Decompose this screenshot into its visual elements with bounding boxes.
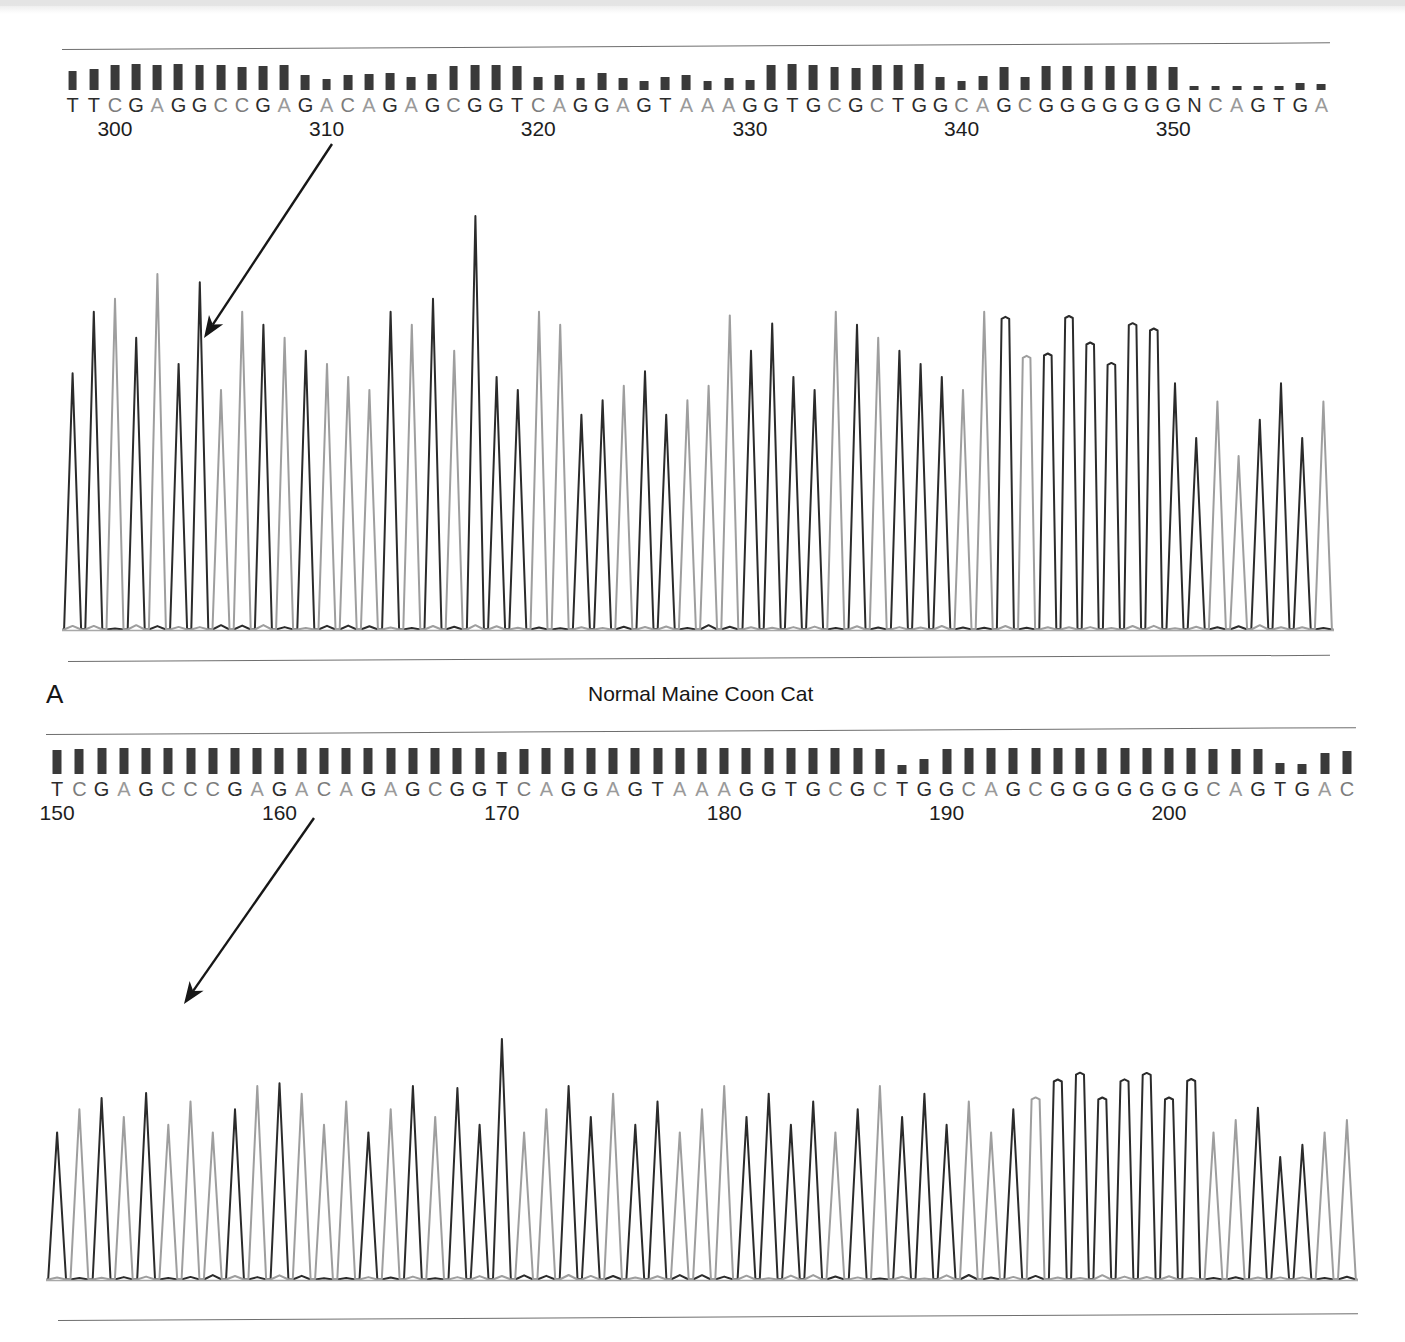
base-quality-bar [920, 759, 929, 774]
base-quality-bar [428, 74, 437, 90]
base-letter: A [246, 778, 268, 800]
ruler-tick-label: 350 [1156, 118, 1191, 140]
base-letter: G [803, 94, 824, 116]
base-letter: G [570, 94, 591, 116]
base-letter: G [135, 778, 157, 800]
base-quality-bar [957, 81, 966, 90]
base-letter: T [780, 778, 802, 800]
base-quality-bar [942, 749, 951, 774]
base-letter: A [358, 94, 379, 116]
base-quality-bar [1211, 86, 1220, 90]
base-quality-bar [1296, 83, 1305, 90]
base-letter: G [930, 94, 951, 116]
base-quality-bar [1105, 66, 1114, 90]
base-letter: G [357, 778, 379, 800]
base-letter: A [972, 94, 993, 116]
base-quality-bar [237, 67, 246, 90]
base-letter: A [316, 94, 337, 116]
base-quality-bar [253, 748, 262, 774]
base-letter: A [274, 94, 295, 116]
base-quality-bar [1275, 86, 1284, 90]
base-letter: G [1163, 94, 1184, 116]
base-letter: G [485, 94, 506, 116]
base-quality-bar [164, 748, 173, 774]
base-quality-bar [1232, 86, 1241, 90]
base-letter: C [866, 94, 887, 116]
base-letter: T [46, 778, 68, 800]
base-quality-bar [851, 68, 860, 90]
base-letter: C [424, 778, 446, 800]
base-letter: T [1269, 778, 1291, 800]
base-letter: G [446, 778, 468, 800]
base-quality-bar [520, 749, 529, 774]
arrow-shaft [193, 818, 314, 991]
base-quality-bar [872, 65, 881, 90]
base-quality-bar [1317, 84, 1326, 90]
base-letter: A [1226, 94, 1247, 116]
base-letter: G [1158, 778, 1180, 800]
base-quality-bar [1120, 748, 1129, 774]
base-quality-bar [132, 64, 141, 90]
base-letter: G [1047, 778, 1069, 800]
base-quality-bar [809, 748, 818, 774]
base-quality-bar [110, 65, 119, 90]
trace-svg [46, 1018, 1358, 1290]
base-letter: G [580, 778, 602, 800]
base-letter: G [422, 94, 443, 116]
base-letter: G [913, 778, 935, 800]
ruler-tick-label: 180 [707, 802, 742, 824]
base-quality-bar [216, 65, 225, 90]
base-letter: G [739, 94, 760, 116]
base-letter: A [549, 94, 570, 116]
base-quality-bar [1098, 748, 1107, 774]
base-letter: A [1314, 778, 1336, 800]
base-letter: C [337, 94, 358, 116]
base-letter: A [713, 778, 735, 800]
base-letter: G [464, 94, 485, 116]
base-quality-bar [987, 748, 996, 774]
base-quality-bar [1187, 748, 1196, 774]
base-letter: G [1099, 94, 1120, 116]
top-panel-upper-rule [62, 42, 1330, 50]
base-letter: G [1036, 94, 1057, 116]
base-letter: T [83, 94, 104, 116]
base-letter: G [1069, 778, 1091, 800]
panel-caption: Normal Maine Coon Cat [588, 683, 813, 705]
base-quality-bar [999, 67, 1008, 90]
base-letter: A [291, 778, 313, 800]
base-quality-bar [1164, 748, 1173, 774]
base-quality-bar [364, 748, 373, 774]
base-letter: G [802, 778, 824, 800]
base-letter: T [888, 94, 909, 116]
bottom-base-call-track: TCGAGCCCGAGACAGAGCGGTCAGGAGTAAAGGTGCGCTG… [0, 740, 1405, 810]
base-quality-bar [119, 748, 128, 774]
ruler-tick-label: 160 [262, 802, 297, 824]
base-letter: C [443, 94, 464, 116]
base-letter: C [958, 778, 980, 800]
base-letter: A [697, 94, 718, 116]
base-letter: G [847, 778, 869, 800]
base-letter: A [113, 778, 135, 800]
base-quality-bar [259, 66, 268, 90]
base-letter: A [669, 778, 691, 800]
ruler-tick-label: 190 [929, 802, 964, 824]
base-letter: C [104, 94, 125, 116]
base-quality-bar [68, 71, 77, 90]
base-letter: G [935, 778, 957, 800]
base-quality-bar [75, 749, 84, 774]
base-quality-bar [1342, 751, 1351, 774]
base-letter: G [1113, 778, 1135, 800]
base-letter: T [891, 778, 913, 800]
base-quality-bar [576, 78, 585, 90]
base-quality-bar [1031, 748, 1040, 774]
base-letter: G [761, 94, 782, 116]
base-quality-bar [386, 73, 395, 90]
panel-letter-a: A [46, 681, 63, 707]
base-quality-bar [661, 77, 670, 90]
top-chromatogram-panel: TTCGAGGCCGAGACAGAGCGGTCAGGAGTAAAGGTGCGCT… [0, 0, 1405, 700]
base-quality-bar [1021, 77, 1030, 90]
base-quality-bar [1276, 763, 1285, 774]
base-letter: G [1078, 94, 1099, 116]
base-quality-bar [724, 78, 733, 90]
base-quality-bar [1320, 753, 1329, 774]
